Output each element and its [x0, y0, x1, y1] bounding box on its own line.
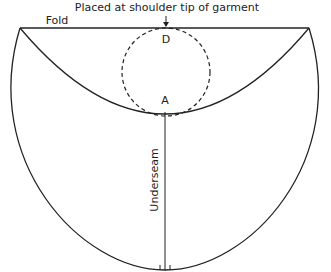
- point-a-label: A: [161, 94, 169, 107]
- arrow-head: [163, 22, 169, 27]
- underseam-label: Underseam: [148, 148, 161, 211]
- top-note-label: Placed at shoulder tip of garment: [75, 1, 260, 14]
- fold-label: Fold: [46, 14, 69, 27]
- sleeve-pattern-diagram: Placed at shoulder tip of garment Fold D…: [0, 0, 331, 272]
- point-d-label: D: [162, 33, 170, 46]
